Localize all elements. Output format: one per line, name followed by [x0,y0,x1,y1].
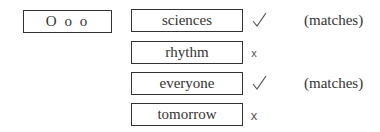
pattern-label: O o o [46,13,89,30]
match-note: (matches) [304,75,363,92]
check-icon [250,73,268,93]
word-label: sciences [162,12,212,29]
word-box-everyone: everyone [131,72,243,95]
match-note: (matches) [304,12,363,29]
word-box-tomorrow: tomorrow [131,103,243,126]
word-label: tomorrow [157,106,216,123]
word-label: rhythm [165,44,208,61]
cross-icon: x [249,105,259,125]
word-box-rhythm: rhythm [131,41,243,64]
word-label: everyone [160,75,215,92]
cross-icon: x [249,43,259,63]
pattern-box: O o o [23,10,112,33]
check-icon [250,10,268,30]
word-box-sciences: sciences [131,9,243,32]
